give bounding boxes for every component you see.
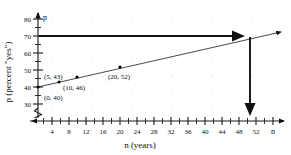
y-tick-40: 40 <box>24 84 32 92</box>
x-tick-24: 24 <box>134 128 142 136</box>
x-tick-20: 20 <box>117 128 125 136</box>
trend-line-series <box>38 32 281 87</box>
x-axis-name: n <box>271 127 275 136</box>
x-tick-44: 44 <box>219 128 227 136</box>
y-tick-labels: 80 70 60 50 40 30 <box>24 16 32 109</box>
point-label-20-52: (20, 52) <box>108 73 131 81</box>
chart-canvas: 80 70 60 50 40 30 p <box>0 0 291 155</box>
x-tick-52: 52 <box>253 128 261 136</box>
x-tick-28: 28 <box>151 128 159 136</box>
x-tick-12: 12 <box>83 128 91 136</box>
chart-figure: 80 70 60 50 40 30 p <box>0 0 291 155</box>
x-tick-4: 4 <box>50 128 54 136</box>
x-axis <box>30 117 284 125</box>
y-tick-60: 60 <box>24 50 32 58</box>
x-tick-36: 36 <box>185 128 193 136</box>
x-axis-left-arrow <box>31 119 37 124</box>
point-label-0-40: (0, 40) <box>44 94 63 102</box>
x-tick-labels: 4 8 12 16 20 24 28 32 36 40 44 48 52 n <box>50 127 275 136</box>
x-tick-8: 8 <box>67 128 71 136</box>
y-tick-30: 30 <box>24 101 32 109</box>
y-tick-80: 80 <box>24 16 32 24</box>
x-tick-40: 40 <box>202 128 210 136</box>
x-axis-title: n (years) <box>124 140 156 150</box>
data-point-20-52 <box>118 65 121 68</box>
x-tick-16: 16 <box>100 128 108 136</box>
point-label-5-43: (5, 43) <box>44 73 63 81</box>
point-labels: (0, 40) (5, 43) (10, 46) (20, 52) <box>44 73 131 102</box>
y-axis-name: p <box>43 13 47 22</box>
data-point-10-46 <box>75 75 78 78</box>
data-point-0-40 <box>36 85 39 88</box>
background-dot-grid <box>51 21 272 110</box>
x-tick-48: 48 <box>236 128 244 136</box>
y-axis-title: p (percent "yes") <box>3 42 13 103</box>
x-tick-32: 32 <box>168 128 176 136</box>
y-tick-70: 70 <box>24 33 32 41</box>
y-axis <box>33 13 43 118</box>
point-label-10-46: (10, 46) <box>63 84 86 92</box>
y-tick-50: 50 <box>24 67 32 75</box>
